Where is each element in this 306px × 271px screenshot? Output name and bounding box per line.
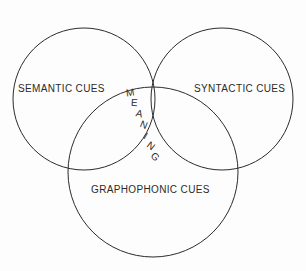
set-label-graphophonic: GRAPHOPHONIC CUES xyxy=(91,185,210,195)
set-label-syntactic: SYNTACTIC CUES xyxy=(194,84,285,94)
intersection-label-meaning: MEANING xyxy=(126,88,170,164)
meaning-letter-6: G xyxy=(149,151,162,164)
venn-diagram: SEMANTIC CUES SYNTACTIC CUES GRAPHOPHONI… xyxy=(0,0,306,271)
set-label-semantic: SEMANTIC CUES xyxy=(18,84,105,94)
meaning-letter-4: I xyxy=(142,131,149,141)
circle-syntactic xyxy=(151,28,293,170)
